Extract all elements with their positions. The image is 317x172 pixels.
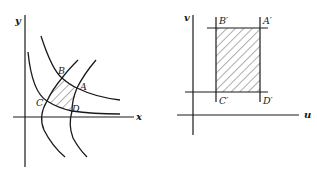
point-label-d-prime: D′ [262, 95, 274, 106]
x-axis-label: x [135, 111, 143, 122]
shaded-rectangle [216, 28, 260, 92]
uv-plane: v u B′ A′ C′ D′ [177, 12, 311, 135]
point-label-a-prime: A′ [262, 15, 273, 26]
u-axis-label: u [304, 109, 311, 120]
point-label-a: A [79, 81, 87, 92]
point-label-c-prime: C′ [219, 95, 229, 106]
xy-plane: y x B A C D [13, 15, 143, 167]
point-label-b-prime: B′ [218, 15, 229, 26]
point-label-c: C [36, 97, 44, 108]
transformation-figure: y x B A C D v u B′ A′ C′ D′ [0, 0, 317, 172]
point-label-b: B [57, 65, 65, 76]
v-axis-label: v [184, 12, 190, 23]
y-axis-label: y [14, 15, 22, 26]
point-label-d: D [71, 103, 80, 114]
